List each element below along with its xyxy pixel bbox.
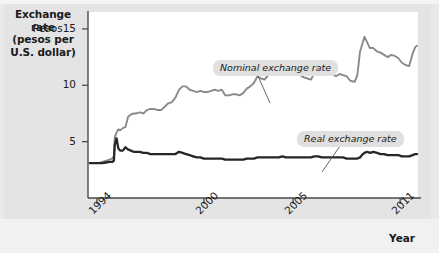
y-tick-label: Pesos15 [0, 22, 76, 34]
axes-group [82, 11, 421, 204]
annotation-nominal-exchange-rate: Nominal exchange rate [213, 60, 338, 76]
annotation-real-exchange-rate: Real exchange rate [297, 131, 404, 147]
y-tick-label: 5 [0, 135, 76, 147]
chart-svg [0, 0, 439, 253]
y-tick-label: 10 [0, 78, 76, 90]
x-axis-title: Year [389, 232, 415, 244]
leader-line-real [322, 146, 340, 172]
chart-figure: Exchange rate (pesos per U.S. dollar) 51… [0, 0, 439, 253]
